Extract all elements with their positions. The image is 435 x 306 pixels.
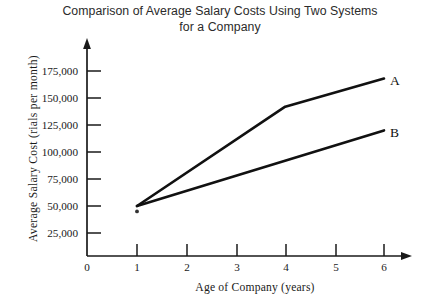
- origin-label: 0: [78, 261, 96, 273]
- asterisk-marker-icon: [135, 210, 139, 214]
- chart-page: Comparison of Average Salary Costs Using…: [0, 0, 435, 306]
- x-tick-label-4: 4: [277, 261, 295, 273]
- x-axis-right-arrow-icon: [401, 252, 412, 260]
- x-tick-label-2: 2: [178, 261, 196, 273]
- y-axis-title: Average Salary Cost (rials per month): [27, 54, 40, 244]
- y-axis-ticks: [87, 71, 101, 233]
- series-label-b: B: [390, 125, 399, 141]
- y-axis-up-arrow-icon: [83, 38, 91, 49]
- x-tick-label-5: 5: [327, 261, 345, 273]
- x-tick-label-3: 3: [228, 261, 246, 273]
- x-axis-ticks: [137, 244, 384, 256]
- x-axis-title: Age of Company (years): [155, 281, 355, 294]
- series-line-b: [137, 130, 384, 206]
- x-tick-label-1: 1: [128, 261, 146, 273]
- x-tick-label-6: 6: [375, 261, 393, 273]
- series-label-a: A: [390, 73, 400, 89]
